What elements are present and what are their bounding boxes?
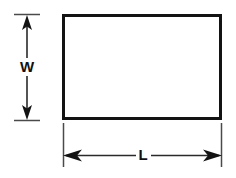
length-label: L: [138, 146, 147, 163]
dimension-diagram: W L: [0, 0, 236, 178]
length-dimension-group: L: [63, 123, 222, 167]
diagram-canvas: W L: [0, 0, 236, 178]
width-label: W: [20, 58, 35, 75]
width-dimension-group: W: [14, 15, 40, 121]
rectangle-shape: [64, 16, 221, 119]
